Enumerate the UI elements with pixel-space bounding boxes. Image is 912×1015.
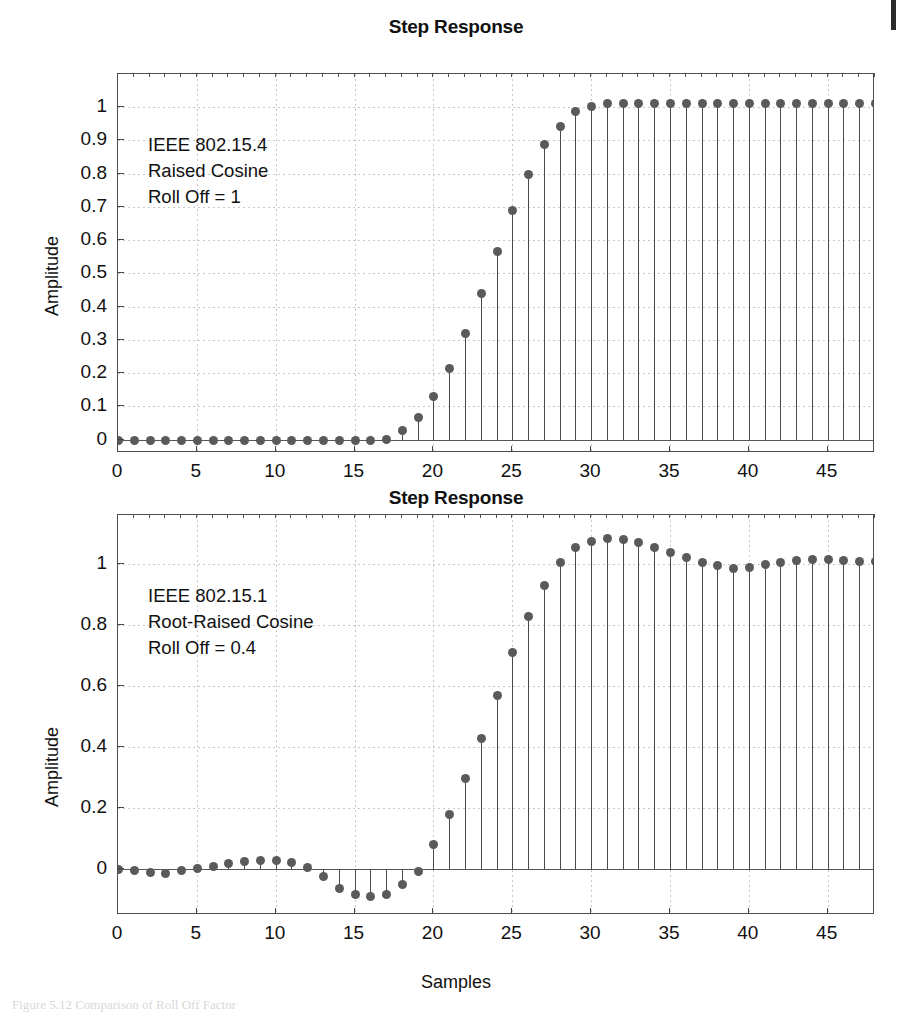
x-axis-minor-tick	[464, 514, 465, 518]
x-axis-minor-tick	[385, 514, 386, 518]
x-axis-minor-tick	[196, 73, 197, 77]
x-axis-minor-tick	[290, 514, 291, 518]
data-point-marker	[319, 436, 328, 445]
x-axis-minor-tick	[669, 73, 670, 77]
x-axis-tick-label: 25	[501, 922, 522, 944]
stem-line	[717, 103, 718, 439]
x-axis-tick-mark	[590, 908, 591, 914]
x-axis-minor-tick	[117, 514, 118, 518]
x-axis-minor-tick	[275, 73, 276, 77]
data-point-marker	[429, 840, 438, 849]
x-axis-minor-tick	[417, 73, 418, 77]
gridline-horizontal	[118, 747, 873, 748]
x-axis-tick-label: 45	[816, 460, 837, 482]
x-axis-minor-tick	[338, 73, 339, 77]
x-axis-minor-tick	[795, 73, 796, 77]
stem-line	[512, 210, 513, 439]
stem-line	[449, 814, 450, 869]
stem-line	[828, 103, 829, 439]
x-axis-minor-tick	[606, 73, 607, 77]
x-axis-minor-tick	[574, 73, 575, 77]
stem-line	[623, 103, 624, 440]
stem-line	[528, 174, 529, 440]
data-point-marker	[224, 436, 233, 445]
stem-line	[686, 103, 687, 439]
y-axis-tick-mark	[117, 746, 124, 747]
stem-line	[780, 562, 781, 869]
x-axis-minor-tick	[716, 73, 717, 77]
x-axis-minor-tick	[133, 73, 134, 77]
stem-line	[591, 541, 592, 869]
data-point-marker	[619, 99, 628, 108]
stem-line	[654, 547, 655, 869]
x-axis-minor-tick	[417, 514, 418, 518]
x-axis-minor-tick	[559, 73, 560, 77]
data-point-marker	[540, 140, 549, 149]
data-point-marker	[761, 560, 770, 569]
x-axis-minor-tick	[543, 73, 544, 77]
y-axis-tick-mark	[117, 439, 124, 440]
y-axis-tick-label: 0.9	[55, 128, 107, 150]
data-point-marker	[272, 856, 281, 865]
x-axis-minor-tick	[779, 514, 780, 518]
stem-line	[859, 103, 860, 439]
y-axis-tick-mark	[117, 106, 124, 107]
x-axis-minor-tick	[448, 514, 449, 518]
x-axis-minor-tick	[811, 514, 812, 518]
x-axis-tick-mark	[354, 446, 355, 452]
stem-line	[828, 559, 829, 869]
data-point-marker	[508, 206, 517, 215]
x-axis-tick-mark	[748, 446, 749, 452]
data-point-marker	[493, 247, 502, 256]
data-point-marker	[824, 555, 833, 564]
x-axis-tick-label: 10	[264, 922, 285, 944]
stem-line	[481, 293, 482, 439]
x-axis-minor-tick	[527, 514, 528, 518]
data-point-marker	[398, 426, 407, 435]
x-axis-tick-mark	[275, 446, 276, 452]
data-point-marker	[146, 868, 155, 877]
data-point-marker	[698, 99, 707, 108]
data-point-marker	[193, 436, 202, 445]
annotation-top-line3: Roll Off = 1	[148, 184, 268, 210]
data-point-marker	[824, 99, 833, 108]
stem-line	[465, 778, 466, 870]
figure-page: Step Response Amplitude IEEE 802.15.4 Ra…	[0, 0, 912, 1015]
y-axis-tick-label: 0.4	[55, 295, 107, 317]
data-point-marker	[272, 436, 281, 445]
x-axis-tick-label: 30	[580, 460, 601, 482]
stem-line	[497, 251, 498, 440]
y-axis-tick-label: 0.2	[55, 361, 107, 383]
x-axis-minor-tick	[369, 514, 370, 518]
stem-line	[702, 562, 703, 869]
y-axis-tick-mark	[117, 372, 124, 373]
annotation-bottom-line2: Root-Raised Cosine	[148, 609, 314, 635]
x-axis-minor-tick	[574, 514, 575, 518]
y-axis-tick-mark	[117, 624, 124, 625]
data-point-marker	[256, 856, 265, 865]
x-axis-minor-tick	[622, 514, 623, 518]
stem-line	[749, 567, 750, 869]
gridline-vertical	[197, 515, 198, 913]
x-axis-tick-label: 25	[501, 460, 522, 482]
data-point-marker	[118, 436, 123, 445]
y-axis-tick-mark	[117, 306, 124, 307]
gridline-horizontal	[118, 373, 873, 374]
gridline-horizontal	[118, 406, 873, 407]
data-point-marker	[351, 890, 360, 899]
data-point-marker	[761, 99, 770, 108]
y-axis-tick-mark	[117, 868, 124, 869]
stem-line	[449, 368, 450, 439]
data-point-marker	[429, 392, 438, 401]
data-point-marker	[240, 857, 249, 866]
y-axis-tick-mark	[117, 563, 124, 564]
x-axis-minor-tick	[432, 73, 433, 77]
y-axis-tick-mark	[117, 206, 124, 207]
data-point-marker	[382, 890, 391, 899]
y-axis-tick-mark	[117, 339, 124, 340]
x-axis-minor-tick	[653, 514, 654, 518]
y-axis-tick-label: 0.6	[55, 228, 107, 250]
stem-line	[497, 695, 498, 869]
x-axis-minor-tick	[354, 514, 355, 518]
stem-line	[607, 538, 608, 869]
